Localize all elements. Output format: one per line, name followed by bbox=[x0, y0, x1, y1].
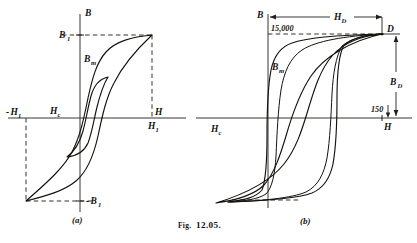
panel-b-bd-dimension bbox=[382, 34, 400, 116]
panel-b-label-bd-sub: D bbox=[397, 82, 403, 89]
figure-caption: Fig. 12.05. bbox=[178, 220, 221, 230]
panel-b-label-bm-main: B bbox=[271, 62, 278, 72]
panel-b-bd-arrow-top bbox=[394, 36, 399, 42]
panel-a-label-h1: H 1 bbox=[147, 121, 159, 133]
panel-a-label-h1-sub: 1 bbox=[156, 126, 159, 133]
panel-a-label-minus-h1-sub: 1 bbox=[18, 112, 21, 119]
figure-svg: B B 1 - B 1 - H 1 H H 1 bbox=[0, 0, 417, 243]
panel-a-label-b1-main: B bbox=[58, 30, 65, 40]
panel-b-label-hd-sub: D bbox=[341, 17, 347, 24]
panel-b-label-150: 150 bbox=[371, 105, 383, 114]
panel-a-label-bm-sub: m bbox=[91, 59, 96, 66]
panel-b-h-pointer-arrow bbox=[386, 113, 390, 119]
panel-b-label-15000: 15,000 bbox=[271, 24, 294, 33]
panel-a-label-hc-sub: c bbox=[58, 111, 61, 118]
panel-b-h-pointer bbox=[386, 105, 390, 118]
panel-b-h-axis-label: H bbox=[383, 122, 392, 132]
panel-b-label-hc-sub: c bbox=[219, 129, 222, 136]
panel-b-hd-arrow-left bbox=[270, 15, 276, 20]
caption-prefix: Fig. bbox=[178, 221, 191, 230]
panel-a-label-bm-main: B bbox=[83, 54, 90, 64]
panel-a: B B 1 - B 1 - H 1 H H 1 bbox=[6, 8, 186, 225]
panel-a-label-minus-b1-main: B bbox=[90, 196, 97, 206]
panel-a-label: (a) bbox=[72, 215, 83, 225]
panel-a-label-minus-b1-prefix: - bbox=[86, 196, 89, 206]
panel-b-b-axis-label: B bbox=[256, 10, 263, 20]
panel-b-hd-arrow-right bbox=[376, 15, 382, 20]
panel-a-label-b1: B 1 bbox=[58, 30, 70, 42]
panel-b: B 15,000 150 D H D B D H c bbox=[196, 10, 412, 226]
panel-a-label-minus-b1-sub: 1 bbox=[98, 201, 101, 208]
panel-b-label-bm-sub: m bbox=[279, 67, 284, 74]
panel-a-label-minus-h1-prefix: - bbox=[6, 107, 9, 117]
panel-a-label-hc: H c bbox=[49, 106, 61, 118]
panel-b-label-hd: H D bbox=[333, 12, 347, 24]
panel-a-b-axis-label: B bbox=[84, 8, 91, 18]
panel-a-label-b1-sub: 1 bbox=[67, 35, 70, 42]
panel-b-label-bm: B m bbox=[271, 62, 284, 74]
panel-b-label-bd: B D bbox=[389, 77, 403, 89]
figure-container: B B 1 - B 1 - H 1 H H 1 bbox=[0, 0, 417, 243]
panel-a-h-axis-label: H bbox=[154, 107, 163, 117]
panel-b-label: (b) bbox=[300, 216, 311, 226]
panel-b-bd-arrow-bottom bbox=[394, 110, 399, 116]
panel-a-label-minus-b1: - B 1 bbox=[86, 196, 101, 208]
panel-b-label-hc: H c bbox=[210, 124, 222, 136]
panel-b-label-d: D bbox=[386, 24, 394, 34]
panel-a-label-bm: B m bbox=[83, 54, 96, 66]
panel-b-label-bd-main: B bbox=[389, 77, 396, 87]
caption-number: 12.05. bbox=[196, 220, 221, 230]
panel-a-label-minus-h1: - H 1 bbox=[6, 107, 21, 119]
